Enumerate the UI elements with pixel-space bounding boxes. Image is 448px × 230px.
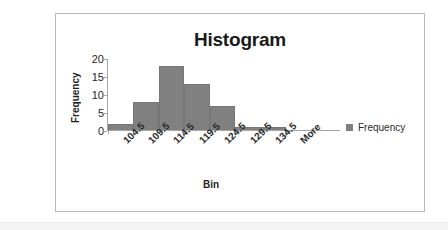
plot-area[interactable] xyxy=(108,59,340,131)
x-axis-title: Bin xyxy=(86,179,336,190)
y-axis-title: Frequency xyxy=(68,63,82,133)
y-tick-mark xyxy=(103,95,107,96)
y-tick-mark xyxy=(103,113,107,114)
chart-container[interactable]: Histogram Frequency 05101520 104.5109.51… xyxy=(55,13,425,212)
chart-legend[interactable]: Frequency xyxy=(346,122,405,133)
y-tick-mark xyxy=(103,59,107,60)
legend-swatch-icon xyxy=(346,124,353,131)
y-axis-tick-labels: 05101520 xyxy=(84,59,104,131)
y-tick-mark xyxy=(103,131,107,132)
x-axis-tick-labels: 104.5109.5114.5119.5124.5129.5134.5More xyxy=(108,138,358,182)
x-tick-mark xyxy=(108,131,109,134)
y-tick-mark xyxy=(103,77,107,78)
bar-slot xyxy=(108,59,133,131)
page-bottom-edge xyxy=(0,222,448,230)
chart-title: Histogram xyxy=(56,29,424,51)
legend-label: Frequency xyxy=(358,122,405,133)
